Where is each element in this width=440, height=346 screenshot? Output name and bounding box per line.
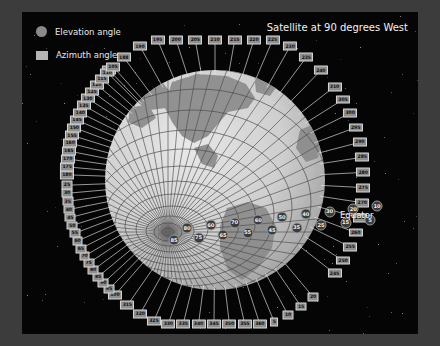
azimuth-label: 20 <box>308 292 319 301</box>
legend: Elevation angle Azimuth angle <box>36 26 121 73</box>
azimuth-label: 55 <box>69 229 80 238</box>
legend-item-azimuth: Azimuth angle <box>36 50 121 60</box>
plot-area: 1851881901952002052102152202252302352403… <box>22 12 418 334</box>
leader-line <box>158 40 176 82</box>
azimuth-label: 280 <box>356 168 370 177</box>
circle-marker-icon <box>36 26 47 37</box>
azimuth-label: 215 <box>228 36 242 45</box>
elevation-label: 30 <box>324 206 335 217</box>
leader-line <box>75 218 116 234</box>
azimuth-label: 165 <box>62 147 76 156</box>
azimuth-label: 175 <box>60 162 74 171</box>
legend-label-elevation: Elevation angle <box>55 27 121 37</box>
elevation-label: 55 <box>242 227 253 238</box>
elevation-label: 60 <box>253 214 264 225</box>
azimuth-label: 50 <box>67 221 78 230</box>
azimuth-label: 290 <box>353 138 367 147</box>
azimuth-label: 230 <box>283 42 297 51</box>
azimuth-label: 40 <box>63 205 74 214</box>
azimuth-label: 355 <box>238 320 252 329</box>
leader-line <box>246 281 260 324</box>
leader-line <box>199 285 204 324</box>
leader-line <box>102 79 136 110</box>
leader-line <box>255 40 273 82</box>
square-marker-icon <box>36 51 48 60</box>
chart-title: Satellite at 90 degrees West <box>267 22 408 33</box>
azimuth-label: 245 <box>327 269 341 278</box>
azimuth-label: 10 <box>283 310 294 319</box>
azimuth-label: 325 <box>147 316 161 325</box>
azimuth-label: 240 <box>314 66 328 75</box>
leader-line <box>236 284 245 324</box>
elevation-label: 35 <box>291 222 302 233</box>
azimuth-label: 350 <box>222 320 236 329</box>
azimuth-label: 310 <box>327 82 341 91</box>
azimuth-label: 15 <box>296 302 307 311</box>
azimuth-label: 345 <box>207 320 221 329</box>
azimuth-label: 250 <box>336 256 350 265</box>
elevation-label: 65 <box>218 230 229 241</box>
elevation-label: 25 <box>316 220 327 231</box>
equator-label: Equator <box>340 210 373 220</box>
azimuth-label: 225 <box>265 36 279 45</box>
leader-line <box>176 40 188 78</box>
azimuth-label: 160 <box>63 139 77 148</box>
azimuth-label: 285 <box>355 153 369 162</box>
azimuth-label: 330 <box>161 320 175 329</box>
azimuth-label: 335 <box>176 320 190 329</box>
leader-line <box>242 40 254 78</box>
leader-line <box>68 195 110 201</box>
azimuth-label: 220 <box>247 36 261 45</box>
azimuth-label: 360 <box>253 320 267 329</box>
azimuth-label: 5 <box>270 317 278 326</box>
legend-item-elevation: Elevation angle <box>36 26 121 37</box>
azimuth-label: 205 <box>188 36 202 45</box>
azimuth-label: 320 <box>133 309 147 318</box>
elevation-label: 40 <box>300 209 311 220</box>
elevation-label: 85 <box>169 235 180 246</box>
azimuth-label: 190 <box>133 42 147 51</box>
leader-line <box>289 70 321 103</box>
azimuth-label: 315 <box>120 301 134 310</box>
azimuth-label: 25 <box>61 181 72 190</box>
azimuth-label: 305 <box>336 95 350 104</box>
azimuth-label: 235 <box>299 53 313 62</box>
azimuth-label: 180 <box>60 170 74 179</box>
leader-line <box>78 223 119 241</box>
azimuth-label: 35 <box>62 197 73 206</box>
azimuth-label: 170 <box>61 154 75 163</box>
azimuth-label: 210 <box>208 36 222 45</box>
elevation-label: 70 <box>229 217 240 228</box>
leader-line <box>229 40 235 75</box>
leader-line <box>267 46 290 87</box>
leader-line <box>275 268 301 307</box>
azimuth-label: 295 <box>349 123 363 132</box>
elevation-label: 45 <box>267 225 278 236</box>
azimuth-label: 255 <box>343 242 357 251</box>
azimuth-label: 260 <box>349 228 363 237</box>
azimuth-label: 60 <box>72 237 83 246</box>
azimuth-label: 195 <box>150 36 164 45</box>
leader-line <box>107 73 140 106</box>
azimuth-label: 155 <box>65 131 79 140</box>
leader-line <box>183 284 193 324</box>
leader-line <box>67 190 109 194</box>
azimuth-label: 340 <box>191 320 205 329</box>
leader-line <box>195 40 201 75</box>
leader-line <box>168 281 183 324</box>
leader-line <box>225 286 230 325</box>
elevation-label: 60 <box>205 220 216 231</box>
elevation-label: 80 <box>182 223 193 234</box>
azimuth-label: 275 <box>356 183 370 192</box>
azimuth-label: 300 <box>343 109 357 118</box>
leader-line <box>72 212 114 225</box>
azimuth-label: 45 <box>65 213 76 222</box>
leader-line <box>140 46 163 87</box>
figure-frame: 1851881901952002052102152202252302352403… <box>0 0 440 346</box>
elevation-label: 50 <box>277 212 288 223</box>
leader-line <box>127 267 154 306</box>
azimuth-label: 30 <box>62 189 73 198</box>
legend-label-azimuth: Azimuth angle <box>56 50 117 60</box>
elevation-label: 75 <box>193 232 204 243</box>
leader-line <box>67 184 109 186</box>
